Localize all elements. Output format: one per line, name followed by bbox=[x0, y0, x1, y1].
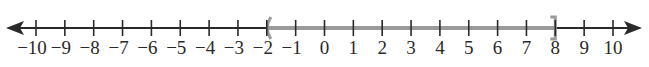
ticks bbox=[36, 20, 613, 36]
tick-label: −10 bbox=[17, 37, 47, 58]
tick-label: 6 bbox=[493, 37, 503, 58]
tick-label: 5 bbox=[464, 37, 474, 58]
tick-label: 0 bbox=[320, 37, 330, 58]
tick-label: 1 bbox=[349, 37, 359, 58]
tick-label: −6 bbox=[137, 37, 157, 58]
number-line: −10−9−8−7−6−5−4−3−2−1012345678910 bbox=[0, 0, 649, 67]
tick-labels: −10−9−8−7−6−5−4−3−2−1012345678910 bbox=[17, 37, 622, 58]
tick-label: −9 bbox=[51, 37, 71, 58]
tick-label: −1 bbox=[282, 37, 302, 58]
tick-label: −2 bbox=[253, 37, 273, 58]
tick-label: 10 bbox=[604, 37, 623, 58]
tick-label: −4 bbox=[195, 37, 216, 58]
tick-label: 4 bbox=[435, 37, 445, 58]
tick-label: −3 bbox=[224, 37, 244, 58]
tick-label: 2 bbox=[377, 37, 387, 58]
tick-label: 8 bbox=[551, 37, 561, 58]
tick-label: 3 bbox=[406, 37, 416, 58]
tick-label: 9 bbox=[579, 37, 589, 58]
tick-label: 7 bbox=[522, 37, 532, 58]
tick-label: −5 bbox=[166, 37, 186, 58]
tick-label: −7 bbox=[108, 37, 128, 58]
tick-label: −8 bbox=[80, 37, 100, 58]
